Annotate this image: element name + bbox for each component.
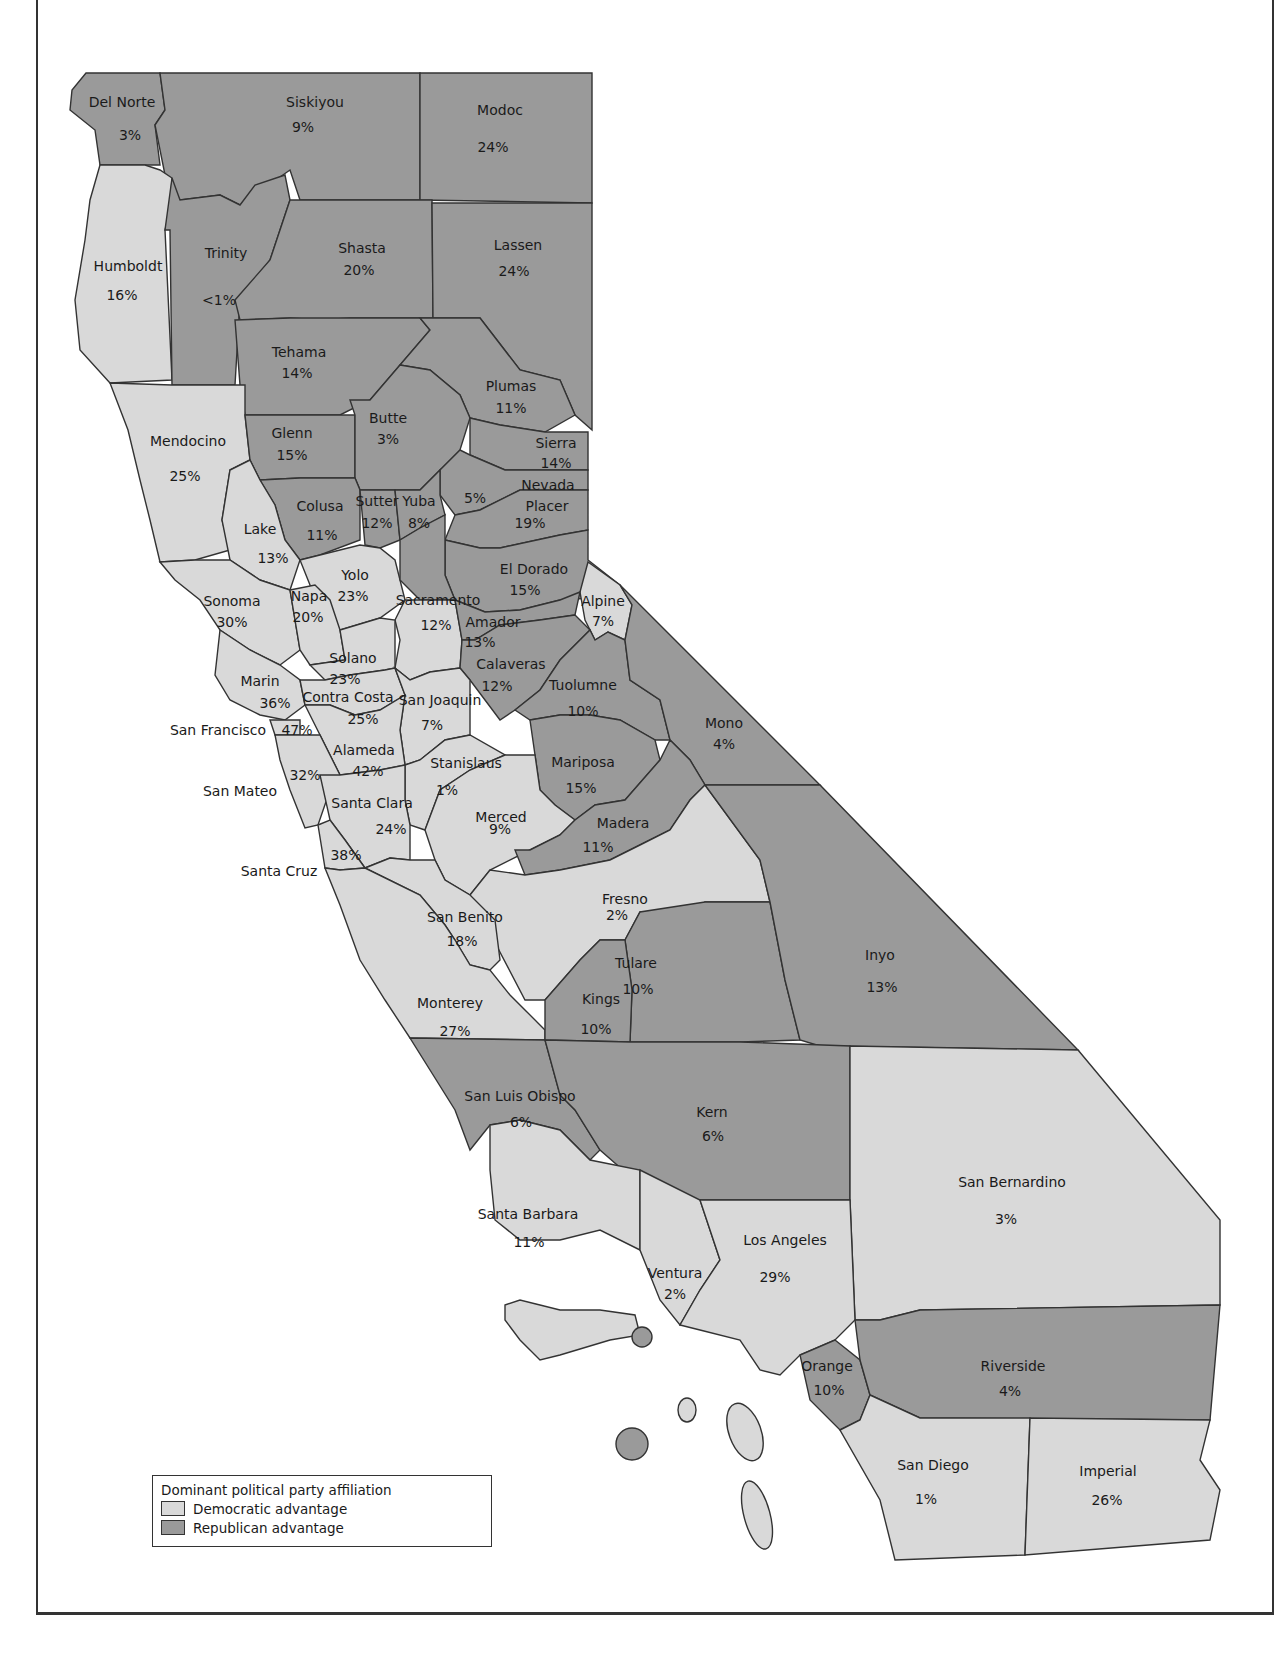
county-del-norte[interactable] [70,73,165,165]
county-imperial[interactable] [1025,1418,1220,1555]
svg-text:16%: 16% [106,287,137,303]
svg-text:Inyo: Inyo [865,947,895,963]
svg-text:Santa Clara: Santa Clara [331,795,412,811]
legend-item-republican: Republican advantage [161,1518,483,1537]
county-sacramento[interactable] [395,600,462,680]
svg-text:Sacramento: Sacramento [396,592,481,608]
svg-text:Stanislaus: Stanislaus [430,755,502,771]
county-modoc[interactable] [420,73,592,203]
svg-text:14%: 14% [281,365,312,381]
svg-text:3%: 3% [377,431,399,447]
svg-text:Sonoma: Sonoma [203,593,260,609]
svg-text:Los Angeles: Los Angeles [743,1232,827,1248]
svg-text:20%: 20% [292,609,323,625]
svg-text:29%: 29% [759,1269,790,1285]
svg-text:San Diego: San Diego [897,1457,969,1473]
svg-text:15%: 15% [276,447,307,463]
svg-text:6%: 6% [510,1114,532,1130]
legend-label-democratic: Democratic advantage [193,1501,347,1517]
svg-text:Placer: Placer [526,498,569,514]
svg-text:Sierra: Sierra [535,435,576,451]
svg-text:15%: 15% [509,582,540,598]
svg-text:47%: 47% [281,722,312,738]
svg-text:San Benito: San Benito [427,909,503,925]
svg-text:Shasta: Shasta [338,240,386,256]
svg-text:10%: 10% [580,1021,611,1037]
svg-text:23%: 23% [337,588,368,604]
svg-text:San Mateo: San Mateo [203,783,277,799]
legend-title: Dominant political party affiliation [161,1480,483,1499]
svg-text:Lassen: Lassen [494,237,542,253]
svg-text:Sutter: Sutter [355,493,398,509]
svg-text:Napa: Napa [291,588,328,604]
svg-text:27%: 27% [439,1023,470,1039]
svg-text:Glenn: Glenn [271,425,312,441]
island-san-clemente [735,1478,778,1552]
svg-text:3%: 3% [119,127,141,143]
svg-text:19%: 19% [514,515,545,531]
svg-text:Nevada: Nevada [521,477,574,493]
svg-text:24%: 24% [375,821,406,837]
svg-text:13%: 13% [257,550,288,566]
svg-text:Imperial: Imperial [1079,1463,1136,1479]
svg-text:Alpine: Alpine [581,593,625,609]
svg-text:Tulare: Tulare [614,955,657,971]
svg-text:11%: 11% [495,400,526,416]
svg-text:Monterey: Monterey [417,995,483,1011]
svg-text:Santa Barbara: Santa Barbara [478,1206,579,1222]
svg-text:Mariposa: Mariposa [551,754,615,770]
svg-text:20%: 20% [343,262,374,278]
svg-text:Kern: Kern [696,1104,727,1120]
svg-text:Alameda: Alameda [333,742,395,758]
svg-text:Mendocino: Mendocino [150,433,226,449]
svg-text:8%: 8% [408,515,430,531]
svg-text:12%: 12% [481,678,512,694]
county-humboldt[interactable] [75,165,172,383]
svg-text:Plumas: Plumas [486,378,537,394]
county-san-diego[interactable] [840,1395,1030,1560]
svg-text:13%: 13% [464,634,495,650]
svg-text:<1%: <1% [202,292,236,308]
svg-text:Mono: Mono [705,715,743,731]
svg-text:4%: 4% [713,736,735,752]
svg-text:Calaveras: Calaveras [476,656,545,672]
island-anacapa [632,1327,652,1347]
svg-text:9%: 9% [489,821,511,837]
svg-text:Solano: Solano [329,650,376,666]
svg-text:38%: 38% [330,847,361,863]
svg-text:Madera: Madera [597,815,650,831]
svg-text:10%: 10% [622,981,653,997]
svg-text:25%: 25% [169,468,200,484]
island-santa-cruz-island [505,1300,640,1360]
island-san-nicolas [616,1428,648,1460]
svg-text:12%: 12% [361,515,392,531]
svg-text:30%: 30% [216,614,247,630]
svg-text:El Dorado: El Dorado [500,561,568,577]
svg-text:24%: 24% [477,139,508,155]
svg-text:San Luis Obispo: San Luis Obispo [464,1088,575,1104]
svg-text:18%: 18% [446,933,477,949]
island-santa-catalina [720,1398,771,1465]
democratic-swatch-icon [161,1501,185,1516]
svg-text:Yuba: Yuba [401,493,435,509]
svg-text:2%: 2% [606,907,628,923]
svg-text:7%: 7% [421,717,443,733]
svg-text:Del Norte: Del Norte [89,94,156,110]
svg-text:2%: 2% [664,1286,686,1302]
svg-text:Ventura: Ventura [648,1265,703,1281]
island-santa-barbara-island [678,1398,696,1422]
map-legend: Dominant political party affiliation Dem… [152,1475,492,1547]
legend-label-republican: Republican advantage [193,1520,344,1536]
republican-swatch-icon [161,1520,185,1535]
svg-text:San Bernardino: San Bernardino [958,1174,1066,1190]
svg-text:Tuolumne: Tuolumne [548,677,617,693]
svg-text:Lake: Lake [244,521,277,537]
svg-text:4%: 4% [999,1383,1021,1399]
svg-text:Siskiyou: Siskiyou [286,94,344,110]
svg-text:Riverside: Riverside [981,1358,1046,1374]
svg-text:25%: 25% [347,711,378,727]
svg-text:23%: 23% [329,671,360,687]
svg-text:3%: 3% [995,1211,1017,1227]
svg-text:Orange: Orange [801,1358,853,1374]
svg-text:6%: 6% [702,1128,724,1144]
